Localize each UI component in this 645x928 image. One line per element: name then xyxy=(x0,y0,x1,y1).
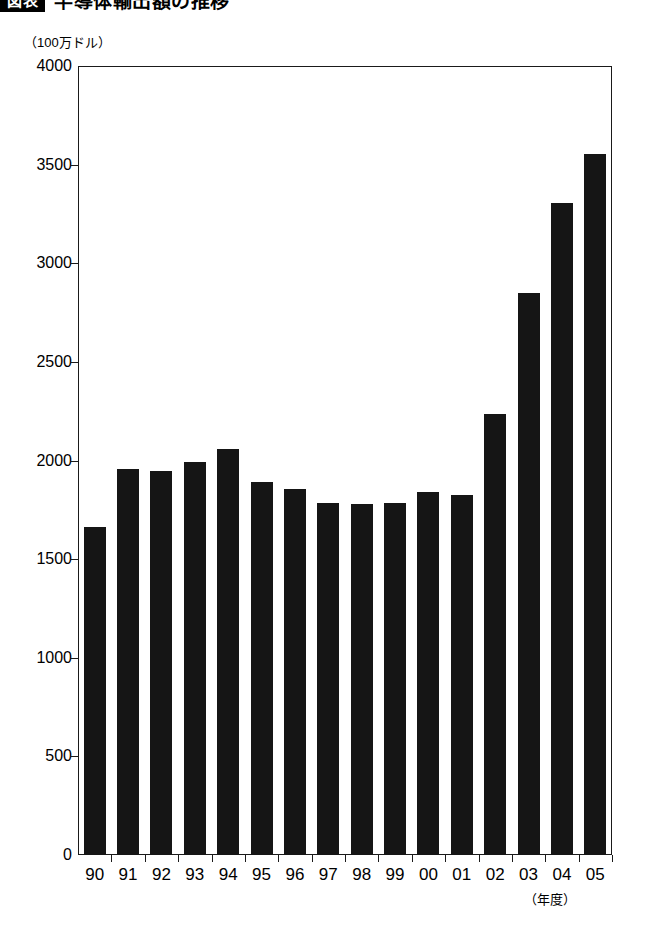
y-axis-tick-label: 2000 xyxy=(36,453,72,469)
y-axis-tick-label: 1500 xyxy=(36,551,72,567)
y-axis-tick-label: 3000 xyxy=(36,255,72,271)
bar-04 xyxy=(551,203,573,855)
bar-90 xyxy=(84,527,106,855)
x-axis-tick-mark xyxy=(378,855,379,862)
x-axis-unit-label: （年度） xyxy=(524,893,576,906)
x-axis-tick-mark xyxy=(579,855,580,862)
x-axis-tick-mark xyxy=(512,855,513,862)
x-axis-tick-mark xyxy=(278,855,279,862)
x-axis-tick-label-05: 05 xyxy=(575,866,615,883)
x-axis-tick-mark xyxy=(412,855,413,862)
x-axis-tick-mark xyxy=(312,855,313,862)
x-axis-tick-mark xyxy=(212,855,213,862)
bar-01 xyxy=(451,495,473,855)
bar-92 xyxy=(150,471,172,855)
bar-series xyxy=(78,66,612,855)
x-axis-tick-mark xyxy=(111,855,112,862)
bar-91 xyxy=(117,469,139,855)
bar-02 xyxy=(484,414,506,855)
y-axis-tick-label: 2500 xyxy=(36,354,72,370)
x-axis-tick-mark xyxy=(445,855,446,862)
bar-95 xyxy=(251,482,273,855)
x-axis-tick-mark xyxy=(345,855,346,862)
bar-chart: （100万ドル） 0500100015002000250030003500400… xyxy=(0,0,645,928)
bar-97 xyxy=(317,503,339,855)
y-axis-tick-label: 3500 xyxy=(36,157,72,173)
bar-00 xyxy=(417,492,439,855)
x-axis-tick-mark xyxy=(612,855,613,862)
bar-98 xyxy=(351,504,373,855)
x-axis-tick-mark xyxy=(245,855,246,862)
x-axis-tick-mark xyxy=(178,855,179,862)
bar-94 xyxy=(217,449,239,855)
x-axis-tick-mark xyxy=(545,855,546,862)
bar-05 xyxy=(584,154,606,855)
x-axis-tick-mark xyxy=(479,855,480,862)
bar-03 xyxy=(518,293,540,855)
bar-99 xyxy=(384,503,406,855)
x-axis-tick-mark xyxy=(145,855,146,862)
bar-96 xyxy=(284,489,306,855)
y-axis-tick-label: 0 xyxy=(63,847,72,863)
y-axis-unit-label: （100万ドル） xyxy=(24,36,111,49)
y-axis-tick-label: 500 xyxy=(45,748,72,764)
y-axis-tick-label: 1000 xyxy=(36,650,72,666)
y-axis-tick-label: 4000 xyxy=(36,58,72,74)
bar-93 xyxy=(184,462,206,855)
